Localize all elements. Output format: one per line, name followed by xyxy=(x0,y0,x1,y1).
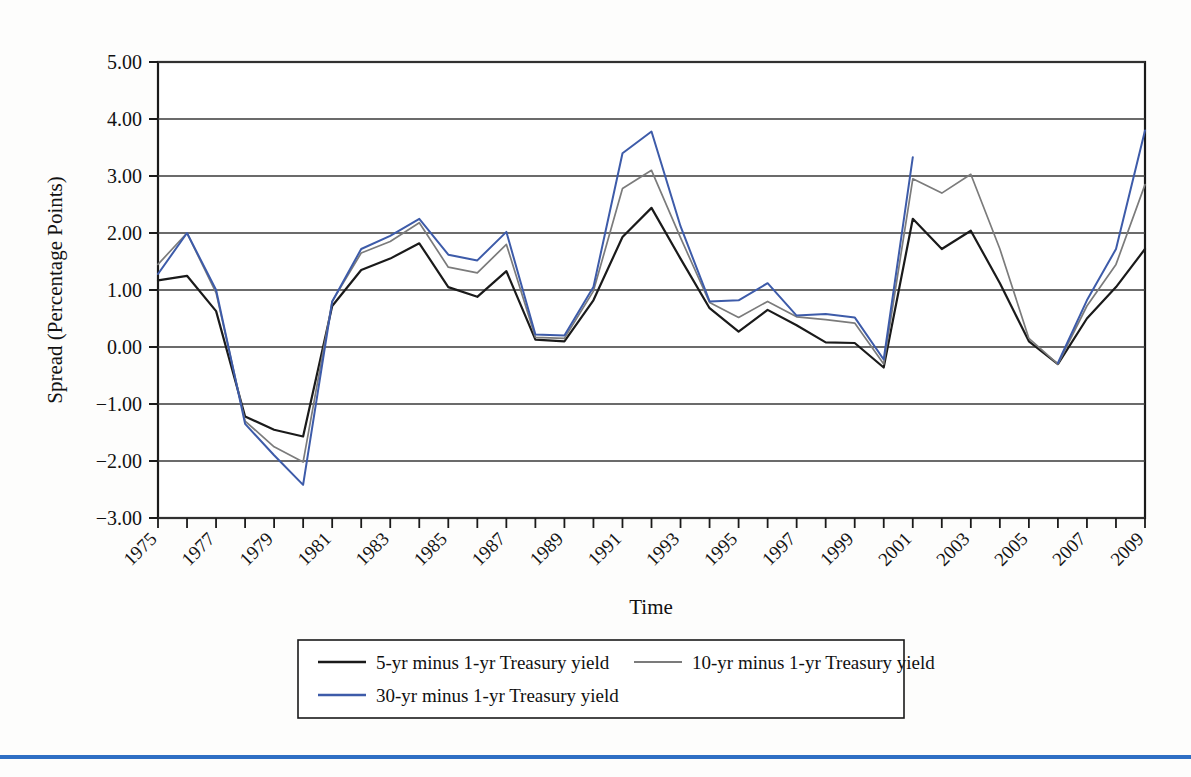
x-tick-label: 1997 xyxy=(758,528,800,570)
x-tick-label: 1981 xyxy=(293,528,335,570)
legend-label: 30-yr minus 1-yr Treasury yield xyxy=(376,685,619,706)
x-tick-label: 1983 xyxy=(351,528,393,570)
x-tick-label: 1991 xyxy=(584,528,626,570)
y-axis-ticks xyxy=(149,62,158,518)
x-tick-label: 1975 xyxy=(119,528,161,570)
legend-label: 10-yr minus 1-yr Treasury yield xyxy=(692,652,935,673)
figure-container: 5.004.003.002.001.000.00−1.00−2.00−3.00 … xyxy=(0,0,1191,777)
y-tick-label: −1.00 xyxy=(96,393,142,415)
y-tick-label: 0.00 xyxy=(107,336,142,358)
footer-accent-rule xyxy=(0,755,1191,759)
x-tick-label: 1989 xyxy=(526,528,568,570)
y-tick-label: 2.00 xyxy=(107,222,142,244)
y-tick-label: −3.00 xyxy=(96,507,142,529)
y-tick-label: −2.00 xyxy=(96,450,142,472)
y-tick-label: 1.00 xyxy=(107,279,142,301)
x-tick-label: 1995 xyxy=(700,528,742,570)
y-axis-tick-labels: 5.004.003.002.001.000.00−1.00−2.00−3.00 xyxy=(96,51,142,529)
x-axis-tick-labels: 1975197719791981198319851987198919911993… xyxy=(119,528,1148,570)
x-tick-label: 1985 xyxy=(409,528,451,570)
legend-label: 5-yr minus 1-yr Treasury yield xyxy=(376,652,610,673)
x-tick-label: 1993 xyxy=(642,528,684,570)
x-tick-label: 2005 xyxy=(990,528,1032,570)
x-tick-label: 1987 xyxy=(467,528,509,570)
x-tick-label: 2009 xyxy=(1106,528,1148,570)
yield-spread-line-chart: 5.004.003.002.001.000.00−1.00−2.00−3.00 … xyxy=(0,0,1191,777)
x-tick-label: 2001 xyxy=(874,528,916,570)
y-tick-label: 5.00 xyxy=(107,51,142,73)
y-tick-label: 4.00 xyxy=(107,108,142,130)
legend: 5-yr minus 1-yr Treasury yield10-yr minu… xyxy=(298,640,935,718)
y-axis-title: Spread (Percentage Points) xyxy=(43,176,67,403)
x-tick-label: 2007 xyxy=(1048,528,1090,570)
x-tick-label: 1999 xyxy=(816,528,858,570)
x-axis-title: Time xyxy=(629,595,673,619)
x-tick-label: 1977 xyxy=(177,528,219,570)
x-tick-label: 2003 xyxy=(932,528,974,570)
x-axis-ticks xyxy=(158,518,1145,528)
x-tick-label: 1979 xyxy=(235,528,277,570)
y-tick-label: 3.00 xyxy=(107,165,142,187)
